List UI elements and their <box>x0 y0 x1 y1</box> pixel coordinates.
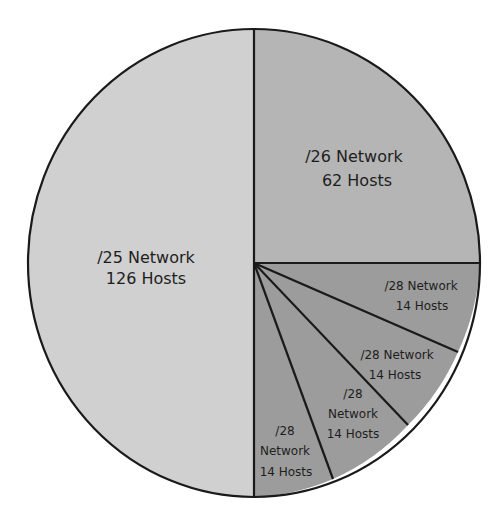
label-26-network: /26 Network <box>305 147 403 166</box>
label-28d-prefix: /28 <box>275 424 294 438</box>
label-28d-network: Network <box>260 444 310 458</box>
label-28b-network: /28 Network <box>360 348 433 362</box>
slice-26-network <box>254 29 480 263</box>
label-25-network: /25 Network <box>97 248 195 267</box>
label-28d-hosts: 14 Hosts <box>260 465 313 479</box>
label-28c-network: Network <box>328 407 378 421</box>
label-28b-hosts: 14 Hosts <box>369 368 422 382</box>
label-25-hosts: 126 Hosts <box>106 269 186 288</box>
subnet-pie-chart: /25 Network 126 Hosts /26 Network 62 Hos… <box>0 0 503 523</box>
label-28a-hosts: 14 Hosts <box>396 299 449 313</box>
label-26-hosts: 62 Hosts <box>322 171 392 190</box>
label-28a-network: /28 Network <box>384 279 457 293</box>
label-28c-hosts: 14 Hosts <box>327 427 380 441</box>
label-28c-prefix: /28 <box>343 387 362 401</box>
